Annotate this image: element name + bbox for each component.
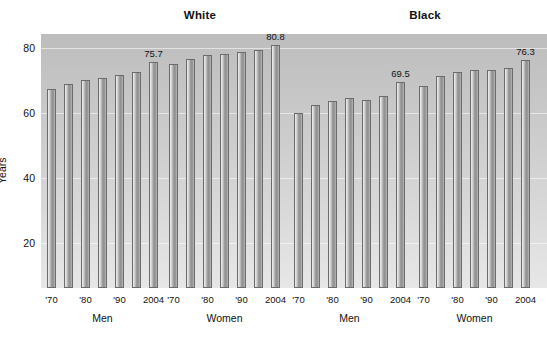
x-tick-label: '70: [292, 294, 304, 305]
bar-group-white-women: 80.8: [169, 34, 287, 288]
bar-value-label: 80.8: [266, 31, 285, 42]
bar[interactable]: [419, 86, 428, 288]
x-tick-label: '90: [360, 294, 372, 305]
x-tick-label: 2004: [143, 294, 164, 305]
bar[interactable]: [237, 52, 246, 288]
bar[interactable]: [149, 62, 158, 288]
bar[interactable]: [345, 98, 354, 288]
group-sex-label-0: Men: [47, 312, 158, 324]
bar[interactable]: [453, 72, 462, 288]
bar[interactable]: [470, 70, 479, 288]
group-sex-label-2: Men: [294, 312, 405, 324]
x-tick-label: '70: [167, 294, 179, 305]
bar[interactable]: [311, 105, 320, 288]
bar[interactable]: [81, 80, 90, 288]
y-tick-label-60: 60: [23, 107, 35, 119]
group-header-black: Black: [399, 9, 451, 21]
x-axis: '70'80'902004Men'70'80'902004Women'70'80…: [41, 288, 547, 340]
x-tick-label: 2004: [390, 294, 411, 305]
x-tick-label: '80: [79, 294, 91, 305]
group-header-white: White: [174, 9, 226, 21]
bar-value-label: 75.7: [144, 48, 163, 59]
x-tick-label: '90: [235, 294, 247, 305]
y-tick-label-40: 40: [23, 172, 35, 184]
bar[interactable]: [294, 113, 303, 288]
x-tick-label: '80: [201, 294, 213, 305]
x-tick-label: '70: [417, 294, 429, 305]
x-tick-label: '80: [451, 294, 463, 305]
bar[interactable]: [362, 100, 371, 288]
bar[interactable]: [254, 50, 263, 288]
y-axis: Years 20406080: [0, 34, 41, 288]
bar[interactable]: [521, 60, 530, 288]
bar[interactable]: [436, 76, 445, 288]
x-tick-label: '90: [485, 294, 497, 305]
x-tick-label: '80: [326, 294, 338, 305]
bar[interactable]: [220, 54, 229, 288]
clipped-title-text: [146, 0, 386, 5]
group-sex-label-3: Women: [419, 312, 530, 324]
y-tick-label-80: 80: [23, 42, 35, 54]
bar[interactable]: [328, 101, 337, 288]
bar-group-black-men: 69.5: [294, 34, 412, 288]
y-axis-title: Years: [0, 158, 8, 184]
group-sex-label-1: Women: [169, 312, 280, 324]
bar[interactable]: [47, 89, 56, 288]
bar-value-label: 69.5: [391, 68, 410, 79]
bar[interactable]: [132, 72, 141, 288]
x-tick-label: 2004: [265, 294, 286, 305]
y-tick-label-20: 20: [23, 237, 35, 249]
bar-group-black-women: 76.3: [419, 34, 537, 288]
bar[interactable]: [115, 75, 124, 288]
plot-panel: 75.780.869.576.3: [41, 34, 547, 288]
bar[interactable]: [186, 59, 195, 288]
bar[interactable]: [379, 96, 388, 288]
x-tick-label: '90: [113, 294, 125, 305]
bar[interactable]: [396, 82, 405, 288]
bar[interactable]: [504, 68, 513, 288]
bar-group-white-men: 75.7: [47, 34, 165, 288]
bar[interactable]: [203, 55, 212, 288]
x-tick-label: 2004: [515, 294, 536, 305]
bar[interactable]: [98, 78, 107, 288]
bar[interactable]: [487, 70, 496, 288]
x-tick-label: '70: [45, 294, 57, 305]
bar[interactable]: [271, 45, 280, 288]
bar[interactable]: [64, 84, 73, 288]
bar-value-label: 76.3: [516, 46, 535, 57]
bar[interactable]: [169, 64, 178, 288]
